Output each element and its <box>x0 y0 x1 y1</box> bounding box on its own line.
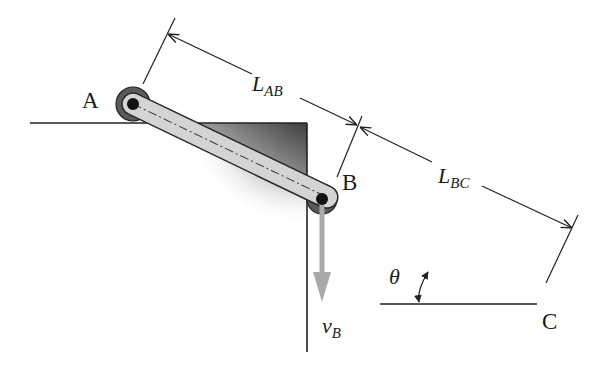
label-l-bc: LBC <box>437 163 470 191</box>
dimension-lbc: LBC <box>337 116 578 283</box>
label-c: C <box>542 309 557 334</box>
label-b: B <box>342 170 357 195</box>
dimension-lab: LAB <box>143 18 357 125</box>
bar-abc <box>118 89 341 211</box>
bar-mechanism-diagram: LAB LBC θ vB A B C <box>0 0 601 371</box>
label-theta: θ <box>389 264 400 289</box>
pin-b <box>316 193 328 205</box>
extension-line-b <box>337 116 362 177</box>
angle-theta: θ <box>380 264 537 304</box>
label-a: A <box>82 88 99 113</box>
label-v-b: vB <box>322 313 341 341</box>
extension-line-c <box>546 215 578 283</box>
extension-line-a <box>143 18 175 84</box>
velocity-arrow-vb: vB <box>313 205 341 341</box>
pin-a <box>127 98 139 110</box>
label-l-ab: LAB <box>251 71 283 99</box>
